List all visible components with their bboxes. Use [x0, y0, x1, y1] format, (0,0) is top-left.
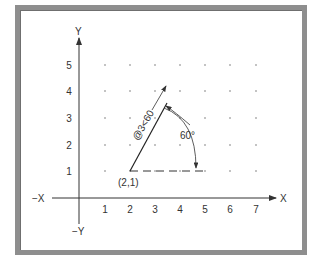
svg-text:1: 1: [66, 166, 72, 177]
svg-text:3: 3: [152, 204, 158, 215]
start-point-label: (2,1): [118, 177, 139, 188]
polar-entry-label: @3<60: [130, 108, 156, 142]
angle-arc-arrow: [166, 106, 190, 125]
svg-text:3: 3: [66, 113, 72, 124]
svg-text:2: 2: [66, 140, 72, 151]
direction-arrow: [152, 86, 166, 110]
svg-text:1: 1: [102, 204, 108, 215]
coordinate-diagram: X −X Y −Y 1 2 3 4 5 6 7 1 2 3 4 5 @3<60 …: [0, 0, 320, 264]
svg-text:2: 2: [127, 204, 133, 215]
y-axis-label: Y: [75, 26, 82, 37]
svg-text:4: 4: [177, 204, 183, 215]
svg-text:5: 5: [66, 60, 72, 71]
y-tick-labels: 1 2 3 4 5: [66, 60, 72, 177]
svg-text:7: 7: [253, 204, 259, 215]
svg-text:5: 5: [202, 204, 208, 215]
neg-y-axis-label: −Y: [72, 226, 85, 237]
x-axis-label: X: [280, 193, 287, 204]
svg-text:4: 4: [66, 86, 72, 97]
svg-text:6: 6: [227, 204, 233, 215]
angle-label: 60°: [180, 130, 195, 141]
neg-x-axis-label: −X: [32, 193, 45, 204]
grid-dots: [104, 64, 257, 172]
x-tick-labels: 1 2 3 4 5 6 7: [102, 204, 259, 215]
